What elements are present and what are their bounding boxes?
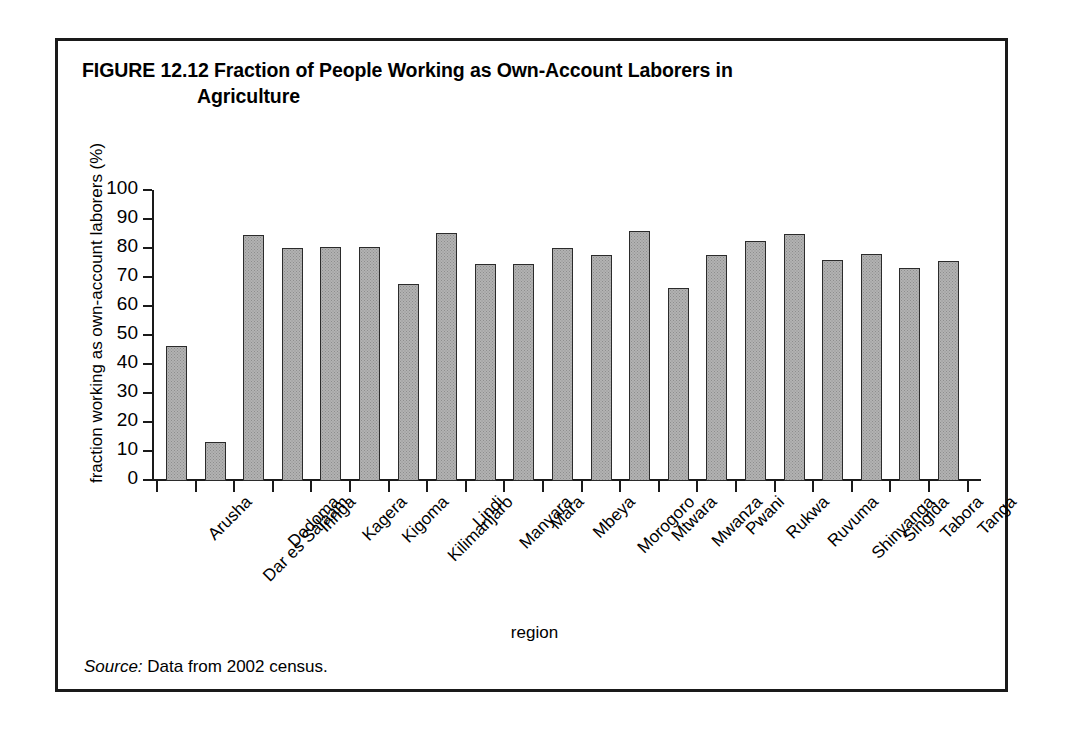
- y-tick-mark: [143, 247, 152, 249]
- x-label-arusha: Arusha: [204, 493, 255, 544]
- x-tick-mark: [426, 481, 428, 492]
- y-tick-label: 80: [92, 235, 138, 257]
- x-tick-mark: [272, 481, 274, 492]
- y-tick-mark: [143, 479, 152, 481]
- y-tick-label: 10: [92, 438, 138, 460]
- x-tick-mark: [735, 481, 737, 492]
- x-tick-mark: [195, 481, 197, 492]
- y-tick-mark: [143, 189, 152, 191]
- source-label: Source:: [84, 657, 143, 676]
- bar-manyara: [475, 264, 496, 481]
- y-tick-label: 60: [92, 293, 138, 315]
- y-tick-label: 70: [92, 264, 138, 286]
- x-tick-mark: [349, 481, 351, 492]
- bar-mwanza: [668, 288, 689, 481]
- x-tick-mark: [851, 481, 853, 492]
- figure-frame: FIGURE 12.12 Fraction of People Working …: [55, 38, 1008, 692]
- bar-morogoro: [591, 255, 612, 481]
- x-tick-mark: [812, 481, 814, 492]
- bar-ruvuma: [784, 234, 805, 481]
- bar-shinyanga: [822, 260, 843, 481]
- y-tick-mark: [143, 276, 152, 278]
- bar-kigoma: [359, 247, 380, 481]
- bar-tanga: [938, 261, 959, 481]
- bar-rukwa: [745, 241, 766, 481]
- y-tick-label: 20: [92, 409, 138, 431]
- x-label-mara: Mara: [547, 493, 587, 533]
- y-tick-label: 40: [92, 351, 138, 373]
- bar-singida: [861, 254, 882, 481]
- x-tick-mark: [967, 481, 969, 492]
- bar-kagera: [320, 247, 341, 481]
- x-tick-mark: [619, 481, 621, 492]
- bars-layer: [152, 181, 981, 481]
- bar-mara: [513, 264, 534, 482]
- source-note: Source: Data from 2002 census.: [84, 657, 328, 677]
- y-tick-mark: [143, 363, 152, 365]
- x-label-mbeya: Mbeya: [589, 493, 638, 542]
- bar-dodoma: [243, 235, 264, 481]
- x-tick-mark: [889, 481, 891, 492]
- y-tick-mark: [143, 450, 152, 452]
- bar-arusha: [166, 346, 187, 481]
- source-value: Data from 2002 census.: [143, 657, 328, 676]
- x-axis-labels: ArushaDar es SalaamDodomaIringaKageraKig…: [152, 493, 992, 643]
- y-tick-mark: [143, 421, 152, 423]
- bar-mbeya: [552, 248, 573, 481]
- bar-kilimanjaro: [398, 284, 419, 481]
- bar-dar-es-salaam: [205, 442, 226, 481]
- chart-axes: 0102030405060708090100: [152, 181, 982, 491]
- y-tick-mark: [143, 218, 152, 220]
- y-tick-label: 50: [92, 322, 138, 344]
- y-tick-label: 0: [92, 467, 138, 489]
- x-tick-mark: [928, 481, 930, 492]
- x-tick-mark: [503, 481, 505, 492]
- bar-lindi: [436, 233, 457, 481]
- x-tick-mark: [156, 481, 158, 492]
- x-tick-mark: [696, 481, 698, 492]
- x-tick-mark: [774, 481, 776, 492]
- y-tick-mark: [143, 392, 152, 394]
- y-tick-mark: [143, 305, 152, 307]
- y-tick-label: 90: [92, 206, 138, 228]
- bar-pwani: [706, 255, 727, 481]
- x-tick-mark: [658, 481, 660, 492]
- y-tick-mark: [143, 334, 152, 336]
- x-tick-mark: [581, 481, 583, 492]
- y-tick-label: 100: [92, 177, 138, 199]
- x-tick-mark: [233, 481, 235, 492]
- x-tick-mark: [388, 481, 390, 492]
- bar-mtwara: [629, 231, 650, 481]
- y-tick-label: 30: [92, 380, 138, 402]
- bar-iringa: [282, 248, 303, 481]
- x-tick-mark: [310, 481, 312, 492]
- x-tick-mark: [465, 481, 467, 492]
- x-axis-title: region: [58, 623, 1011, 643]
- bar-tabora: [899, 268, 920, 481]
- chart-plot-area: fraction working as own-account laborers…: [58, 41, 1005, 689]
- x-tick-mark: [542, 481, 544, 492]
